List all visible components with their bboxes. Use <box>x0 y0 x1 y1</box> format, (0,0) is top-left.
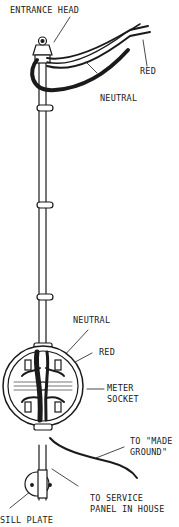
label-entrance-head: ENTRANCE HEAD <box>10 5 79 15</box>
sill-plate <box>25 470 51 498</box>
label-sill-plate: SILL PLATE <box>0 515 53 525</box>
label-red-socket: RED <box>99 347 115 357</box>
ground-wire <box>50 438 137 478</box>
pointer-lines <box>10 17 147 508</box>
label-red-top: RED <box>140 66 156 76</box>
label-neutral-top: NEUTRAL <box>100 93 137 103</box>
service-entrance-diagram: ENTRANCE HEAD RED NEUTRAL NEUTRAL RED ME… <box>0 0 179 527</box>
label-made-ground-2: GROUND" <box>130 447 167 457</box>
label-made-ground-1: TO "MADE <box>130 436 173 446</box>
label-meter-socket-1: METER <box>107 383 134 393</box>
label-service-panel-1: TO SERVICE <box>90 493 143 503</box>
label-service-panel-2: PANEL IN HOUSE <box>90 504 164 514</box>
conduit-mast <box>39 60 46 500</box>
label-neutral-socket: NEUTRAL <box>73 315 110 325</box>
meter-socket <box>3 343 83 430</box>
label-meter-socket-2: SOCKET <box>107 394 139 404</box>
